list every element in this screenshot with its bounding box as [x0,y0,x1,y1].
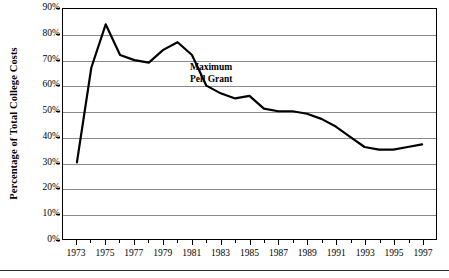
x-axis-minor-tick-mark [119,240,120,243]
x-axis-tick-label: 1979 [148,248,178,258]
annotation-maximum-pell-grant: Maximum Pell Grant [190,62,232,86]
data-line-layer [63,9,436,239]
x-axis: 1973197519771979198119831985198719891991… [62,240,438,278]
y-axis-tick-mark [56,34,60,35]
x-axis-minor-tick-mark [380,240,381,243]
x-axis-tick-mark [250,240,251,245]
x-axis-minor-tick-mark [322,240,323,243]
x-axis-tick-mark [76,240,77,245]
x-axis-tick-mark [163,240,164,245]
x-axis-tick-label: 1997 [408,248,438,258]
x-axis-tick-mark [394,240,395,245]
x-axis-tick-label: 1989 [292,248,322,258]
x-axis-tick-mark [336,240,337,245]
y-axis-tick-mark [56,60,60,61]
x-axis-minor-tick-mark [264,240,265,243]
y-axis-tick-mark [56,8,60,9]
chart-container: Percentage of Total College Costs 90%80%… [0,0,449,278]
x-axis-tick-label: 1973 [61,248,91,258]
x-axis-tick-mark [307,240,308,245]
x-axis-tick-mark [365,240,366,245]
annotation-line-1: Maximum [190,62,232,74]
x-axis-tick-label: 1985 [235,248,265,258]
y-axis-tick-mark [56,240,60,241]
x-axis-tick-label: 1987 [263,248,293,258]
x-axis-tick-mark [278,240,279,245]
x-axis-minor-tick-mark [409,240,410,243]
y-axis-tick-labels: 90%80%70%60%50%40%30%20%10%0% [26,0,60,250]
x-axis-tick-label: 1991 [321,248,351,258]
x-axis-tick-mark [423,240,424,245]
plot-area: Maximum Pell Grant [62,8,437,240]
x-axis-tick-mark [134,240,135,245]
annotation-line-2: Pell Grant [190,74,232,86]
y-axis-tick-mark [56,214,60,215]
y-axis-tick-mark [56,188,60,189]
y-axis-tick-mark [56,137,60,138]
x-axis-minor-tick-mark [293,240,294,243]
y-axis-title: Percentage of Total College Costs [0,0,26,246]
x-axis-minor-tick-mark [177,240,178,243]
x-axis-minor-tick-mark [206,240,207,243]
x-axis-minor-tick-mark [148,240,149,243]
page-divider [0,270,449,271]
y-axis-tick-mark [56,85,60,86]
x-axis-minor-tick-mark [351,240,352,243]
x-axis-tick-mark [221,240,222,245]
y-axis-tick-mark [56,163,60,164]
x-axis-minor-tick-mark [235,240,236,243]
x-axis-tick-label: 1981 [177,248,207,258]
x-axis-tick-label: 1983 [206,248,236,258]
x-axis-tick-mark [105,240,106,245]
x-axis-minor-tick-mark [90,240,91,243]
series-line-maximum-pell-grant [77,24,422,162]
y-axis-tick-mark [56,111,60,112]
x-axis-tick-label: 1975 [90,248,120,258]
x-axis-tick-mark [192,240,193,245]
x-axis-tick-label: 1995 [379,248,409,258]
x-axis-tick-label: 1993 [350,248,380,258]
y-axis-title-text: Percentage of Total College Costs [8,47,19,199]
x-axis-tick-label: 1977 [119,248,149,258]
